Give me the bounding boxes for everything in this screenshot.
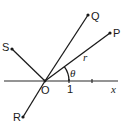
label-q: Q xyxy=(91,10,100,22)
label-radius: r xyxy=(83,51,88,63)
point-p xyxy=(108,31,111,34)
label-origin: O xyxy=(41,84,50,96)
label-r: R xyxy=(13,111,21,123)
label-s: S xyxy=(2,41,9,53)
label-unit: 1 xyxy=(67,83,73,95)
origin-point xyxy=(44,80,47,83)
label-p: P xyxy=(113,27,120,39)
label-theta: θ xyxy=(70,67,76,79)
point-r xyxy=(21,115,24,118)
point-s xyxy=(10,47,13,50)
theta-arc xyxy=(64,67,69,81)
polar-diagram: P Q S R O 1 x θ r xyxy=(0,0,125,129)
ray-os xyxy=(12,49,45,81)
label-x-axis: x xyxy=(110,83,116,95)
point-q xyxy=(86,13,89,16)
ray-op xyxy=(45,33,110,81)
